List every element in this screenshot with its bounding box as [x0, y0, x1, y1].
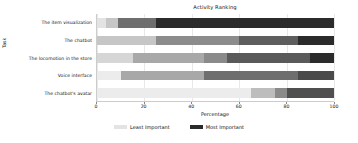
bar-segment[interactable]	[97, 53, 133, 63]
x-axis-label: Percentage	[96, 111, 334, 117]
y-axis-tick-label: The chatbot's avatar	[0, 91, 92, 96]
bar-segment[interactable]	[287, 88, 334, 98]
bar-segment[interactable]	[298, 71, 334, 81]
bar-segment[interactable]	[106, 18, 118, 28]
bar-segment[interactable]	[121, 71, 204, 81]
legend-label: Least Important	[130, 124, 170, 130]
y-axis-tick-label: Voice interface	[0, 73, 92, 78]
bar-segment[interactable]	[310, 53, 334, 63]
legend-swatch	[114, 125, 127, 129]
bar-segment[interactable]	[204, 71, 299, 81]
y-axis-tick-label: The locomotion in the store	[0, 56, 92, 61]
y-axis-tick-label: The item visualization	[0, 20, 92, 25]
bar-segment[interactable]	[156, 18, 334, 28]
bar-segment[interactable]	[227, 53, 310, 63]
x-axis-tick-label: 20	[141, 104, 147, 109]
bar-row[interactable]	[97, 18, 334, 28]
bar-segment[interactable]	[156, 36, 239, 46]
bar-segment[interactable]	[118, 18, 156, 28]
chart-title: Activity Ranking	[96, 4, 334, 10]
bar-segment[interactable]	[251, 88, 275, 98]
bar-row[interactable]	[97, 53, 334, 63]
bar-segment[interactable]	[97, 36, 156, 46]
x-axis-tick-label: 60	[236, 104, 242, 109]
plot-area	[96, 14, 334, 102]
bar-segment[interactable]	[133, 53, 204, 63]
x-axis-tick-label: 80	[283, 104, 289, 109]
chart-figure: Activity Ranking Task The item visualiza…	[0, 0, 358, 143]
bar-segment[interactable]	[239, 36, 298, 46]
y-axis-tick-label: The chatbot	[0, 38, 92, 43]
bar-segment[interactable]	[298, 36, 334, 46]
bar-group	[97, 14, 334, 101]
bar-segment[interactable]	[204, 53, 228, 63]
legend-label: Most Important	[206, 124, 244, 130]
bar-row[interactable]	[97, 71, 334, 81]
x-axis-tick-label: 40	[188, 104, 194, 109]
bar-segment[interactable]	[97, 18, 106, 28]
bar-segment[interactable]	[275, 88, 287, 98]
bar-row[interactable]	[97, 88, 334, 98]
legend-swatch	[190, 125, 203, 129]
x-axis-tick-label: 0	[95, 104, 98, 109]
bar-segment[interactable]	[97, 71, 121, 81]
bar-segment[interactable]	[97, 88, 251, 98]
chart-legend: Least ImportantMost Important	[0, 124, 358, 130]
bar-row[interactable]	[97, 36, 334, 46]
gridline	[334, 14, 335, 101]
legend-item[interactable]: Least Important	[114, 124, 170, 130]
legend-item[interactable]: Most Important	[190, 124, 244, 130]
x-axis-tick-label: 100	[330, 104, 339, 109]
